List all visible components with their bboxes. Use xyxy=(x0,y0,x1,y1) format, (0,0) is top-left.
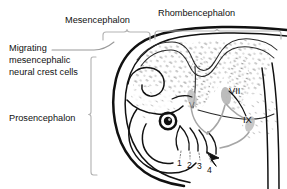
embryo-neural-crest-figure: Mesencephalon Rhombencephalon Migrating … xyxy=(0,0,287,189)
label-migrating-line3: neural crest cells xyxy=(9,67,78,79)
mesencephalon-bracket xyxy=(103,30,150,41)
label-migrating-line2: mesencephalic xyxy=(9,55,70,67)
prosencephalon-bracket xyxy=(89,57,97,175)
label-ganglion-v: V xyxy=(189,101,195,111)
label-ganglion-ix: IX xyxy=(243,114,252,125)
figure-canvas xyxy=(0,0,287,189)
pharyngeal-arches xyxy=(176,126,219,166)
label-arch-3: 3 xyxy=(197,161,202,171)
label-ganglion-vii: VII xyxy=(229,85,240,96)
label-prosencephalon: Prosencephalon xyxy=(9,113,75,124)
label-migrating-line1: Migrating xyxy=(9,43,47,55)
label-rhombencephalon: Rhombencephalon xyxy=(158,8,235,19)
label-arch-4: 4 xyxy=(207,165,212,175)
neural-crest-stipple-field xyxy=(127,40,279,143)
migrating-leader-line xyxy=(52,42,114,50)
label-arch-1: 1 xyxy=(177,158,182,168)
label-mesencephalon: Mesencephalon xyxy=(65,15,130,26)
label-arch-2: 2 xyxy=(187,160,192,170)
